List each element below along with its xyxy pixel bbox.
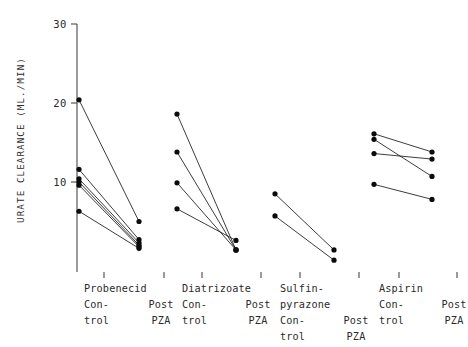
data-series-lines	[79, 100, 432, 260]
y-axis-title: URATE CLEARANCE (ML./MIN)	[15, 57, 26, 223]
x-axis-ticks	[104, 272, 457, 278]
point-aspirin-control-1	[371, 137, 376, 142]
pair-line-probenecid-1	[79, 169, 139, 239]
point-aspirin-control-2	[371, 151, 376, 156]
point-probenecid-control-4	[76, 183, 81, 188]
col-label-probenecid-control-line-1: trol	[84, 315, 109, 326]
col-label-diatrizoate-control-line-0: Con-	[182, 299, 207, 310]
urate-clearance-chart: 102030 URATE CLEARANCE (ML./MIN) Probene…	[0, 0, 468, 347]
group-label-aspirin: Aspirin	[379, 283, 423, 294]
col-label-sulfinpyrazone-control-line-0: Con-	[280, 315, 305, 326]
col-label-diatrizoate-control-line-1: trol	[182, 315, 207, 326]
pair-line-diatrizoate-3	[177, 209, 236, 241]
point-aspirin-control-0	[371, 131, 376, 136]
pair-line-diatrizoate-2	[177, 183, 236, 250]
point-probenecid-post-0	[136, 219, 141, 224]
y-tick-label-20: 20	[53, 97, 67, 109]
point-aspirin-post-1	[429, 174, 434, 179]
col-label-probenecid-post-line-0: Post	[148, 299, 173, 310]
group-label-sulfinpyrazone-line-1: pyrazone	[280, 299, 330, 310]
pair-line-probenecid-2	[79, 179, 139, 243]
col-label-diatrizoate-post-line-1: PZA	[249, 315, 268, 326]
col-label-sulfinpyrazone-control-line-1: trol	[280, 331, 305, 342]
point-sulfinpyrazone-control-0	[272, 191, 277, 196]
pair-line-aspirin-3	[374, 184, 432, 199]
point-diatrizoate-control-1	[174, 149, 179, 154]
col-label-aspirin-control-line-0: Con-	[379, 299, 404, 310]
point-sulfinpyrazone-control-1	[272, 213, 277, 218]
point-aspirin-post-2	[429, 156, 434, 161]
col-label-probenecid-control-line-0: Con-	[84, 299, 109, 310]
point-probenecid-control-5	[76, 209, 81, 214]
y-axis-ticks	[71, 24, 77, 182]
point-probenecid-post-5	[136, 246, 141, 251]
col-label-sulfinpyrazone-post-line-0: Post	[343, 315, 368, 326]
pair-line-probenecid-0	[79, 100, 139, 222]
x-axis-group-labels: ProbenecidCon-trolPostPZADiatrizoateCon-…	[84, 283, 467, 342]
y-axis-tick-labels: 102030	[53, 18, 67, 188]
group-label-diatrizoate: Diatrizoate	[182, 283, 251, 294]
pair-line-diatrizoate-0	[177, 114, 236, 250]
y-axis-title-text: URATE CLEARANCE (ML./MIN)	[15, 57, 26, 223]
point-aspirin-control-3	[371, 182, 376, 187]
point-diatrizoate-control-2	[174, 180, 179, 185]
col-label-sulfinpyrazone-post-line-1: PZA	[347, 331, 366, 342]
point-aspirin-post-3	[429, 197, 434, 202]
pair-line-aspirin-0	[374, 134, 432, 152]
col-label-probenecid-post-line-1: PZA	[152, 315, 171, 326]
point-diatrizoate-post-3	[233, 238, 238, 243]
group-label-sulfinpyrazone-line-0: Sulfin-	[280, 283, 324, 294]
point-sulfinpyrazone-post-1	[331, 258, 336, 263]
point-probenecid-control-1	[76, 167, 81, 172]
point-diatrizoate-control-0	[174, 111, 179, 116]
point-diatrizoate-post-2	[233, 247, 238, 252]
point-aspirin-post-0	[429, 149, 434, 154]
group-label-probenecid: Probenecid	[84, 283, 147, 294]
col-label-diatrizoate-post-line-0: Post	[245, 299, 270, 310]
y-tick-label-10: 10	[53, 176, 67, 188]
pair-line-probenecid-5	[79, 211, 139, 248]
y-tick-label-30: 30	[53, 18, 67, 30]
pair-line-probenecid-3	[79, 182, 139, 245]
pair-line-sulfinpyrazone-0	[275, 194, 334, 250]
col-label-aspirin-control-line-1: trol	[379, 315, 404, 326]
point-diatrizoate-control-3	[174, 206, 179, 211]
chart-canvas: 102030 URATE CLEARANCE (ML./MIN) Probene…	[0, 0, 468, 347]
col-label-aspirin-post-line-0: Post	[441, 299, 466, 310]
col-label-aspirin-post-line-1: PZA	[445, 315, 464, 326]
pair-line-probenecid-4	[79, 185, 139, 247]
pair-line-sulfinpyrazone-1	[275, 216, 334, 260]
point-probenecid-control-0	[76, 97, 81, 102]
point-sulfinpyrazone-post-0	[331, 247, 336, 252]
